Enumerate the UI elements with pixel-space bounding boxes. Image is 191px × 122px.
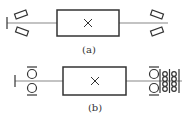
bearing-left-top-a: [15, 10, 28, 19]
figure-b: [15, 67, 182, 95]
bearing-right-bottom-a: [151, 27, 164, 36]
bearing-right-top-a: [151, 10, 164, 19]
caption-a: (a): [74, 44, 104, 55]
caption-b: (b): [80, 102, 110, 113]
bearing-left-bottom-a: [16, 27, 29, 36]
figure-a: [7, 10, 168, 36]
